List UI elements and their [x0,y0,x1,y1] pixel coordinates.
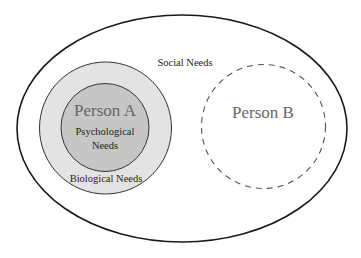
psychological-needs-label-line1: Psychological [76,126,135,137]
social-needs-diagram: Social Needs Person A Psychological Need… [0,0,361,258]
psychological-needs-label-line2: Needs [92,140,118,151]
biological-needs-label: Biological Needs [70,173,143,184]
person-b-label: Person B [232,103,294,122]
person-a-label: Person A [74,101,137,120]
social-needs-label: Social Needs [157,57,212,68]
